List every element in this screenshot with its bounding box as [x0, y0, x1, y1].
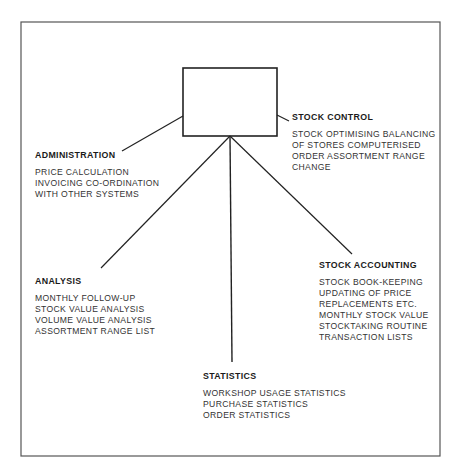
node-administration: ADMINISTRATION PRICE CALCULATION INVOICI… — [35, 150, 159, 200]
node-item: PURCHASE STATISTICS — [203, 399, 346, 410]
node-item: ORDER ASSORTMENT RANGE — [292, 151, 436, 162]
node-title: STATISTICS — [203, 371, 346, 382]
center-box — [183, 68, 277, 136]
node-analysis: ANALYSIS MONTHLY FOLLOW-UP STOCK VALUE A… — [35, 276, 155, 337]
node-item: STOCKTAKING ROUTINE — [319, 321, 429, 332]
node-title: STOCK CONTROL — [292, 112, 436, 123]
node-title: ADMINISTRATION — [35, 150, 159, 161]
node-item: ORDER STATISTICS — [203, 410, 346, 421]
node-item: TRANSACTION LISTS — [319, 332, 429, 343]
node-item: MONTHLY STOCK VALUE — [319, 310, 429, 321]
node-stock-accounting: STOCK ACCOUNTING STOCK BOOK-KEEPING UPDA… — [319, 260, 429, 343]
connector-administration — [122, 116, 183, 151]
node-item: MONTHLY FOLLOW-UP — [35, 293, 155, 304]
connector-stock-control — [277, 115, 289, 121]
node-item: WORKSHOP USAGE STATISTICS — [203, 388, 346, 399]
node-item: WITH OTHER SYSTEMS — [35, 189, 159, 200]
node-item: VOLUME VALUE ANALYSIS — [35, 315, 155, 326]
node-item: INVOICING CO-ORDINATION — [35, 178, 159, 189]
node-item: STOCK VALUE ANALYSIS — [35, 304, 155, 315]
connector-statistics — [230, 136, 232, 362]
node-stock-control: STOCK CONTROL STOCK OPTIMISING BALANCING… — [292, 112, 436, 173]
node-item: STOCK OPTIMISING BALANCING — [292, 129, 436, 140]
node-item: ASSORTMENT RANGE LIST — [35, 326, 155, 337]
node-statistics: STATISTICS WORKSHOP USAGE STATISTICS PUR… — [203, 371, 346, 421]
node-item: CHANGE — [292, 162, 436, 173]
node-item: PRICE CALCULATION — [35, 167, 159, 178]
node-item: OF STORES COMPUTERISED — [292, 140, 436, 151]
node-title: ANALYSIS — [35, 276, 155, 287]
node-item: UPDATING OF PRICE — [319, 288, 429, 299]
node-item: STOCK BOOK-KEEPING — [319, 277, 429, 288]
node-title: STOCK ACCOUNTING — [319, 260, 429, 271]
node-item: REPLACEMENTS ETC. — [319, 299, 429, 310]
